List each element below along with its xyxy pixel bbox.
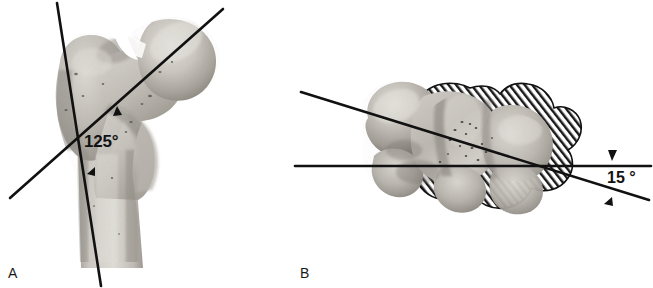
arrowhead-lower-b: [604, 197, 613, 206]
panel-label-b: B: [300, 266, 310, 280]
angle-label-15: 15 °: [607, 170, 636, 186]
arrowhead-upper-b: [608, 150, 617, 161]
femur-axial-photograph: [355, 75, 581, 220]
femur-proximal-photograph: [40, 10, 220, 280]
figure-container: 125° 15 ° A B: [0, 0, 653, 288]
panel-label-a: A: [8, 266, 18, 280]
angle-label-125: 125°: [84, 133, 118, 150]
